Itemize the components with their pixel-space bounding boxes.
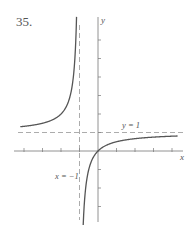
asymptote-label-y: y = 1 (121, 120, 140, 130)
curve-right-branch (83, 136, 177, 225)
x-axis-label: x (179, 152, 184, 162)
curve-left-branch (20, 17, 76, 127)
graph: yxy = 1x = −1 (0, 0, 194, 233)
asymptote-label-x: x = −1 (54, 171, 79, 181)
y-axis-label: y (100, 15, 105, 25)
